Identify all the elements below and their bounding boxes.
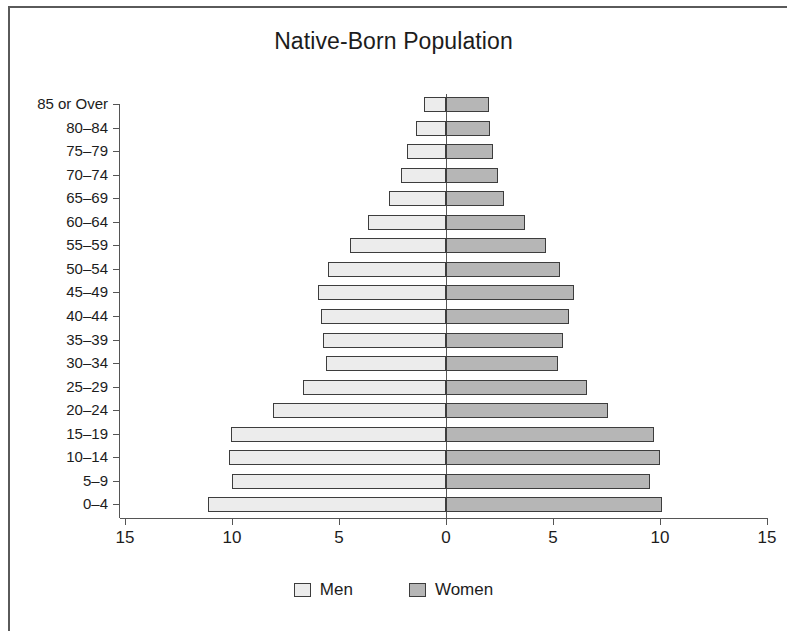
x-axis-label: 15 <box>747 528 787 548</box>
population-pyramid-figure: Native-Born Population 85 or Over80–8475… <box>0 0 787 637</box>
bar-men <box>407 144 446 159</box>
bar-women <box>446 285 574 300</box>
y-axis-label: 50–54 <box>0 260 108 277</box>
y-axis-label: 15–19 <box>0 425 108 442</box>
x-axis-label: 15 <box>105 528 145 548</box>
bar-women <box>446 121 490 136</box>
y-axis-label: 10–14 <box>0 448 108 465</box>
bar-women <box>446 191 504 206</box>
x-axis-tick <box>553 518 554 525</box>
bar-women <box>446 497 662 512</box>
bar-men <box>273 403 446 418</box>
x-axis-tick <box>767 518 768 525</box>
bar-men <box>208 497 446 512</box>
x-axis-label: 0 <box>426 528 466 548</box>
y-axis-label: 40–44 <box>0 307 108 324</box>
legend-swatch-women-icon <box>409 583 426 597</box>
bar-men <box>303 380 446 395</box>
bar-men <box>229 450 446 465</box>
legend-label-men: Men <box>320 580 353 600</box>
bar-women <box>446 333 563 348</box>
bar-women <box>446 474 650 489</box>
bar-men <box>424 97 446 112</box>
bar-women <box>446 97 489 112</box>
bar-women <box>446 144 493 159</box>
bar-men <box>318 285 446 300</box>
plot-area: 85 or Over80–8475–7970–7465–6960–6455–59… <box>0 0 787 637</box>
bar-women <box>446 215 525 230</box>
bar-men <box>389 191 446 206</box>
bar-women <box>446 309 569 324</box>
y-axis-label: 70–74 <box>0 166 108 183</box>
bar-women <box>446 427 654 442</box>
y-axis-label: 0–4 <box>0 495 108 512</box>
y-axis-label: 35–39 <box>0 331 108 348</box>
x-axis-label: 10 <box>640 528 680 548</box>
bar-women <box>446 262 560 277</box>
x-axis-label: 10 <box>212 528 252 548</box>
y-axis-label: 45–49 <box>0 283 108 300</box>
bar-men <box>321 309 446 324</box>
bar-women <box>446 356 558 371</box>
y-axis-label: 85 or Over <box>0 95 108 112</box>
chart-legend: Men Women <box>0 580 787 600</box>
bar-women <box>446 380 587 395</box>
bar-men <box>368 215 446 230</box>
y-axis-label: 5–9 <box>0 472 108 489</box>
bar-women <box>446 238 546 253</box>
y-axis-label: 65–69 <box>0 189 108 206</box>
y-axis-label: 20–24 <box>0 401 108 418</box>
bar-women <box>446 168 498 183</box>
bar-men <box>401 168 446 183</box>
y-axis-label: 55–59 <box>0 236 108 253</box>
x-axis-label: 5 <box>319 528 359 548</box>
y-axis-label: 60–64 <box>0 213 108 230</box>
bar-men <box>416 121 446 136</box>
x-axis-label: 5 <box>533 528 573 548</box>
legend-label-women: Women <box>435 580 493 600</box>
bar-men <box>231 427 446 442</box>
bar-women <box>446 450 660 465</box>
y-axis-label: 30–34 <box>0 354 108 371</box>
bar-women <box>446 403 608 418</box>
y-axis-label: 80–84 <box>0 119 108 136</box>
legend-swatch-men-icon <box>294 583 311 597</box>
x-axis-tick <box>339 518 340 525</box>
y-axis-spine <box>119 104 120 518</box>
bar-men <box>232 474 446 489</box>
x-axis-tick <box>446 518 447 525</box>
legend-item-men: Men <box>294 580 353 600</box>
x-axis-tick <box>660 518 661 525</box>
x-axis-tick <box>232 518 233 525</box>
x-axis-tick <box>125 518 126 525</box>
bar-men <box>328 262 446 277</box>
bar-men <box>350 238 446 253</box>
y-axis-label: 75–79 <box>0 142 108 159</box>
x-axis-line <box>120 518 768 519</box>
bar-men <box>323 333 446 348</box>
legend-item-women: Women <box>409 580 493 600</box>
y-axis-label: 25–29 <box>0 378 108 395</box>
bar-men <box>326 356 446 371</box>
